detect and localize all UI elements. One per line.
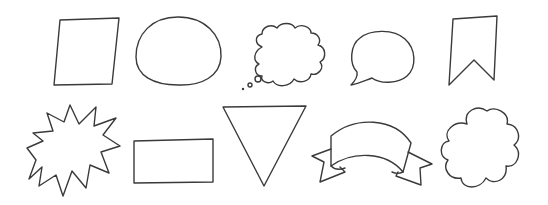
thought-bubble: Thought bubble (240, 21, 328, 91)
inverted-triangle: Inverted triangle (222, 105, 308, 188)
oval-frame: Oval frame (135, 16, 223, 87)
bookmark-banner: Bookmark banner (448, 15, 499, 87)
square-frame: Square frame (53, 16, 121, 86)
rectangle-frame: Rectangle frame (132, 138, 215, 185)
doodle-canvas: Hand-drawn shapes Square frame Oval fram… (0, 0, 548, 205)
ribbon-banner: Ribbon banner (310, 118, 434, 187)
speech-bubble: Speech bubble (349, 30, 419, 87)
cloud-flower: Cloud flower (439, 105, 523, 191)
starburst: Starburst (26, 104, 122, 198)
